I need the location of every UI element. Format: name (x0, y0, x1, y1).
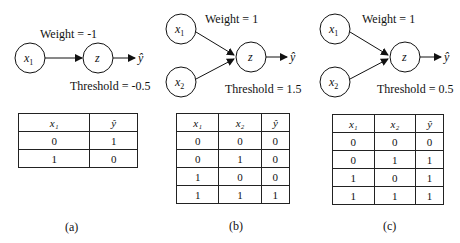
table-header-row: x₁ x₂ ŷ (333, 115, 444, 133)
table-header-cell: x₁ (333, 115, 375, 133)
input-label-x1-a: x1 (23, 51, 33, 67)
table-header-cell: ŷ (416, 115, 444, 133)
truth-table-a: x₁ ŷ 0 1 1 0 (18, 113, 138, 168)
table-row: 0 1 1 (333, 151, 444, 169)
edge-x2-z-c (350, 59, 388, 79)
table-cell: 0 (177, 150, 219, 168)
node-label-z-c: z (401, 50, 407, 64)
table-cell: 0 (374, 169, 416, 187)
table-header-cell: ŷ (90, 114, 138, 132)
table-cell: 1 (219, 186, 261, 204)
output-label-c: ŷ (443, 50, 450, 64)
table-cell: 1 (90, 132, 138, 150)
caption-b: (b) (229, 219, 243, 234)
output-label-b: ŷ (289, 50, 296, 64)
input-label-x1-b: x1 (174, 22, 184, 38)
table-row: 1 0 1 (333, 169, 444, 187)
table-cell: 0 (19, 132, 90, 150)
threshold-label-b: Threshold = 1.5 (225, 82, 301, 96)
table-row: 1 0 0 (177, 168, 290, 186)
table-cell: 1 (416, 169, 444, 187)
table-header-cell: ŷ (261, 114, 289, 132)
table-row: 0 1 (19, 132, 138, 150)
table-row: 0 0 0 (177, 132, 290, 150)
table-header-row: x₁ ŷ (19, 114, 138, 132)
table-row: 1 1 1 (333, 187, 444, 205)
panel-c-network: Weight = 1 x1 x2 z ŷ Threshold = 0.5 (320, 12, 453, 97)
caption-a: (a) (65, 220, 78, 235)
table-header-cell: x₁ (177, 114, 219, 132)
table-cell: 0 (416, 133, 444, 151)
edge-x1-z-b (196, 32, 234, 55)
table-cell: 1 (374, 187, 416, 205)
edge-x2-z-b (196, 59, 234, 79)
truth-table-c: x₁ x₂ ŷ 0 0 0 0 1 1 1 0 1 1 1 1 (332, 114, 444, 205)
table-header-cell: x₁ (19, 114, 90, 132)
table-cell: 0 (90, 150, 138, 168)
table-cell: 0 (374, 133, 416, 151)
table-cell: 1 (416, 187, 444, 205)
table-cell: 0 (261, 150, 289, 168)
table-row: 1 0 (19, 150, 138, 168)
table-cell: 1 (416, 151, 444, 169)
table-cell: 1 (177, 186, 219, 204)
panel-b-network: Weight = 1 x1 x2 z ŷ Threshold = 1.5 (166, 12, 301, 97)
edge-x1-z-c (350, 32, 388, 55)
table-cell: 0 (219, 168, 261, 186)
table-cell: 0 (177, 132, 219, 150)
table-cell: 0 (333, 133, 375, 151)
table-cell: 1 (261, 186, 289, 204)
table-cell: 0 (333, 151, 375, 169)
table-cell: 1 (19, 150, 90, 168)
table-cell: 1 (374, 151, 416, 169)
threshold-label-c: Threshold = 0.5 (377, 82, 453, 96)
weight-label-a: Weight = -1 (40, 27, 97, 41)
table-row: 0 0 0 (333, 133, 444, 151)
table-cell: 1 (177, 168, 219, 186)
node-label-z-b: z (247, 50, 253, 64)
table-cell: 1 (333, 169, 375, 187)
panel-a-network: Weight = -1 x1 z ŷ Threshold = -0.5 (15, 27, 150, 93)
input-label-x2-c: x2 (328, 75, 338, 91)
table-header-cell: x₂ (374, 115, 416, 133)
threshold-label-a: Threshold = -0.5 (70, 79, 150, 93)
input-label-x1-c: x1 (328, 22, 338, 38)
table-header-cell: x₂ (219, 114, 261, 132)
table-row: 1 1 1 (177, 186, 290, 204)
table-cell: 0 (261, 168, 289, 186)
table-row: 0 1 0 (177, 150, 290, 168)
table-header-row: x₁ x₂ ŷ (177, 114, 290, 132)
output-label-a: ŷ (137, 51, 144, 65)
table-cell: 0 (261, 132, 289, 150)
input-label-x2-b: x2 (174, 75, 184, 91)
table-cell: 0 (219, 132, 261, 150)
caption-c: (c) (383, 219, 396, 234)
node-label-z-a: z (94, 51, 100, 65)
table-cell: 1 (219, 150, 261, 168)
table-cell: 1 (333, 187, 375, 205)
weight-label-b: Weight = 1 (205, 12, 258, 26)
weight-label-c: Weight = 1 (362, 12, 415, 26)
truth-table-b: x₁ x₂ ŷ 0 0 0 0 1 0 1 0 0 1 1 1 (176, 113, 290, 204)
